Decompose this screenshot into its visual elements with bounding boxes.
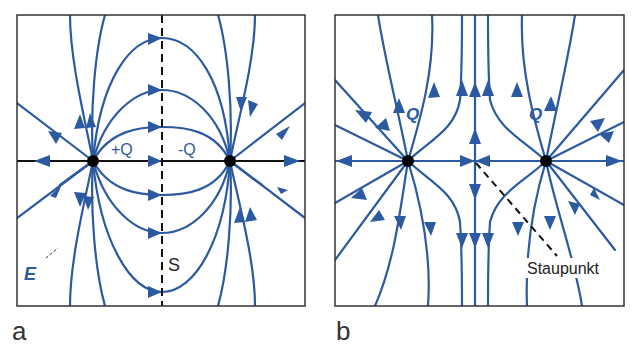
- label-field-e: E: [24, 264, 37, 284]
- label-minus-q: -Q: [178, 141, 196, 158]
- label-charge-right: Q: [529, 105, 542, 124]
- charge-positive: [87, 155, 99, 167]
- label-charge-left: Q: [406, 105, 419, 124]
- figure-canvas: +Q -Q S E: [0, 0, 632, 355]
- panel-b-label: b: [336, 316, 350, 347]
- panel-b: Q Q Staupunkt: [335, 15, 624, 306]
- charge-right: [540, 155, 552, 167]
- field-label-leader: [46, 248, 58, 258]
- charge-left: [402, 155, 414, 167]
- dipole-field-lines: [17, 15, 305, 306]
- panel-a: +Q -Q S E: [17, 15, 305, 306]
- label-stagnation-point: Staupunkt: [527, 260, 600, 277]
- panel-a-label: a: [12, 316, 26, 347]
- label-plus-q: +Q: [111, 141, 133, 158]
- label-symmetry-plane: S: [168, 255, 180, 275]
- charge-negative: [224, 155, 236, 167]
